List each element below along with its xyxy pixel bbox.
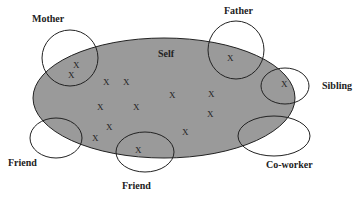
self-label: Self [158, 48, 175, 59]
x-mark: X [208, 89, 215, 99]
x-mark: X [123, 77, 130, 87]
x-mark: X [135, 145, 142, 155]
x-mark: X [182, 127, 189, 137]
father-label: Father [224, 5, 253, 16]
x-mark: X [169, 90, 176, 100]
x-mark: X [68, 70, 75, 80]
x-mark: X [73, 60, 80, 70]
x-mark: X [97, 102, 104, 112]
x-mark: X [207, 109, 214, 119]
x-mark: X [133, 102, 140, 112]
sibling-label: Sibling [322, 80, 352, 91]
x-mark: X [103, 77, 110, 87]
mother-label: Mother [32, 13, 65, 24]
co-worker-label: Co-worker [266, 159, 313, 170]
x-mark: X [227, 53, 234, 63]
friend-left-label: Friend [8, 157, 37, 168]
x-mark: X [281, 79, 288, 89]
x-mark: X [92, 133, 99, 143]
friend-bottom-label: Friend [122, 180, 151, 191]
x-mark: X [106, 122, 113, 132]
self-other-overlap-diagram: XXXXXXXXXXXXXXX Self MotherFatherSibling… [0, 0, 363, 199]
